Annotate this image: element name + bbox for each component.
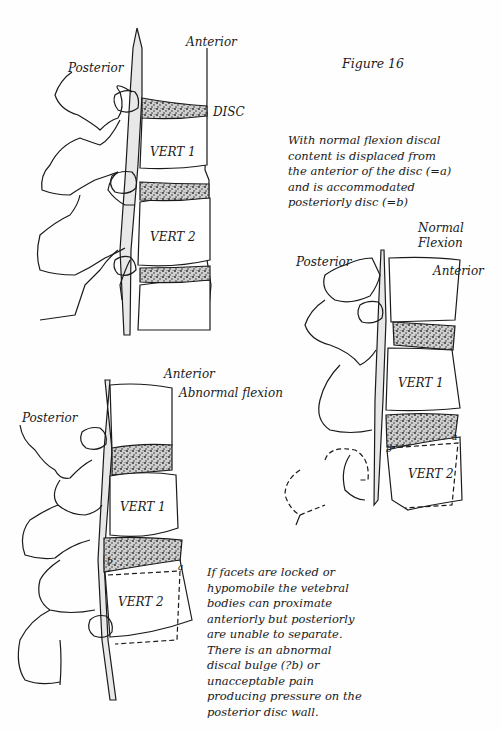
normal-posterior-label: Posterior <box>296 256 351 268</box>
abnormal-vert2-label: VERT 2 <box>118 595 164 609</box>
normal-flexion-title-line2: Flexion <box>418 237 463 249</box>
top-vert2-label: VERT 2 <box>150 230 196 244</box>
top-vert1-label: VERT 1 <box>150 145 196 159</box>
normal-flexion-title-line1: Normal <box>418 222 464 234</box>
normal-vert2-label: VERT 2 <box>408 467 454 481</box>
abnormal-point-a: a <box>178 562 183 572</box>
abnormal-flexion-diagram <box>18 380 192 700</box>
neutral-spine-diagram <box>38 28 212 335</box>
top-posterior-label: Posterior <box>68 62 123 74</box>
abnormal-anterior-label: Anterior <box>164 368 215 380</box>
abnormal-vert1-label: VERT 1 <box>120 500 166 514</box>
normal-point-b: b <box>386 444 392 454</box>
top-disc-label: DISC <box>213 106 245 118</box>
abnormal-flexion-caption: If facets are locked or hypomobile the v… <box>207 565 367 720</box>
normal-vert1-label: VERT 1 <box>398 376 444 390</box>
normal-anterior-label: Anterior <box>433 265 484 277</box>
normal-point-a: a <box>452 432 457 442</box>
figure-page: Anterior Posterior DISC VERT 1 VERT 2 Fi… <box>0 0 502 730</box>
abnormal-point-b: b <box>107 556 113 566</box>
abnormal-posterior-label: Posterior <box>22 412 77 424</box>
top-anterior-label: Anterior <box>186 36 237 48</box>
normal-flexion-caption: With normal flexion discal content is di… <box>288 133 453 211</box>
abnormal-flexion-title: Abnormal flexion <box>179 387 283 399</box>
figure-title: Figure 16 <box>342 58 404 71</box>
